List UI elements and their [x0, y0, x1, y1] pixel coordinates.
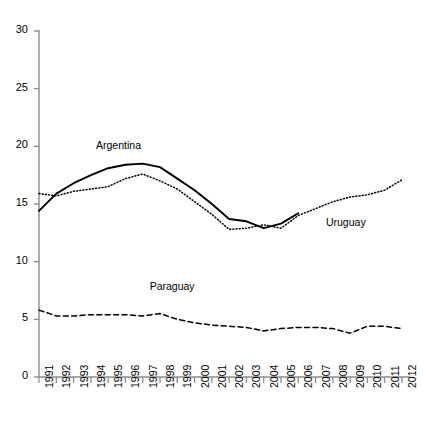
- series-label-uruguay: Uruguay: [326, 216, 366, 228]
- y-tick-label: 25: [4, 81, 28, 93]
- line-chart: 051015202530 199119921993199419951996199…: [0, 0, 423, 436]
- x-tick-label: 2011: [389, 365, 401, 388]
- x-tick-label: 1998: [164, 365, 176, 388]
- y-tick-label: 20: [4, 138, 28, 150]
- series-label-paraguay: Paraguay: [150, 280, 195, 292]
- x-tick-label: 2003: [250, 365, 262, 388]
- x-tick-label: 1997: [147, 365, 159, 388]
- x-tick-label: 2005: [285, 365, 297, 388]
- x-tick-label: 2007: [320, 365, 332, 388]
- x-tick-label: 1993: [78, 365, 90, 388]
- series-line-paraguay: [39, 310, 402, 333]
- x-tick-label: 2002: [233, 365, 245, 388]
- y-tick-label: 10: [4, 254, 28, 266]
- x-tick-label: 2012: [406, 365, 418, 388]
- x-tick-label: 1992: [60, 365, 72, 388]
- series-label-argentina: Argentina: [96, 139, 141, 151]
- series-lines: [39, 164, 402, 334]
- x-tick-label: 2009: [354, 365, 366, 388]
- y-tick-label: 30: [4, 23, 28, 35]
- x-tick-label: 1999: [181, 365, 193, 388]
- x-tick-label: 1994: [95, 365, 107, 388]
- x-tick-label: 2008: [337, 365, 349, 388]
- x-tick-label: 1996: [129, 365, 141, 388]
- y-tick-label: 0: [4, 369, 28, 381]
- x-tick-label: 2004: [268, 365, 280, 388]
- y-tick-label: 15: [4, 196, 28, 208]
- x-tick-label: 2001: [216, 365, 228, 388]
- x-tick-label: 2010: [371, 365, 383, 388]
- series-line-argentina: [39, 164, 298, 229]
- y-tick-label: 5: [4, 311, 28, 323]
- x-tick-label: 1995: [112, 365, 124, 388]
- axes: [34, 30, 410, 383]
- x-tick-label: 1991: [43, 365, 55, 388]
- x-tick-label: 2000: [199, 365, 211, 388]
- x-tick-label: 2006: [302, 365, 314, 388]
